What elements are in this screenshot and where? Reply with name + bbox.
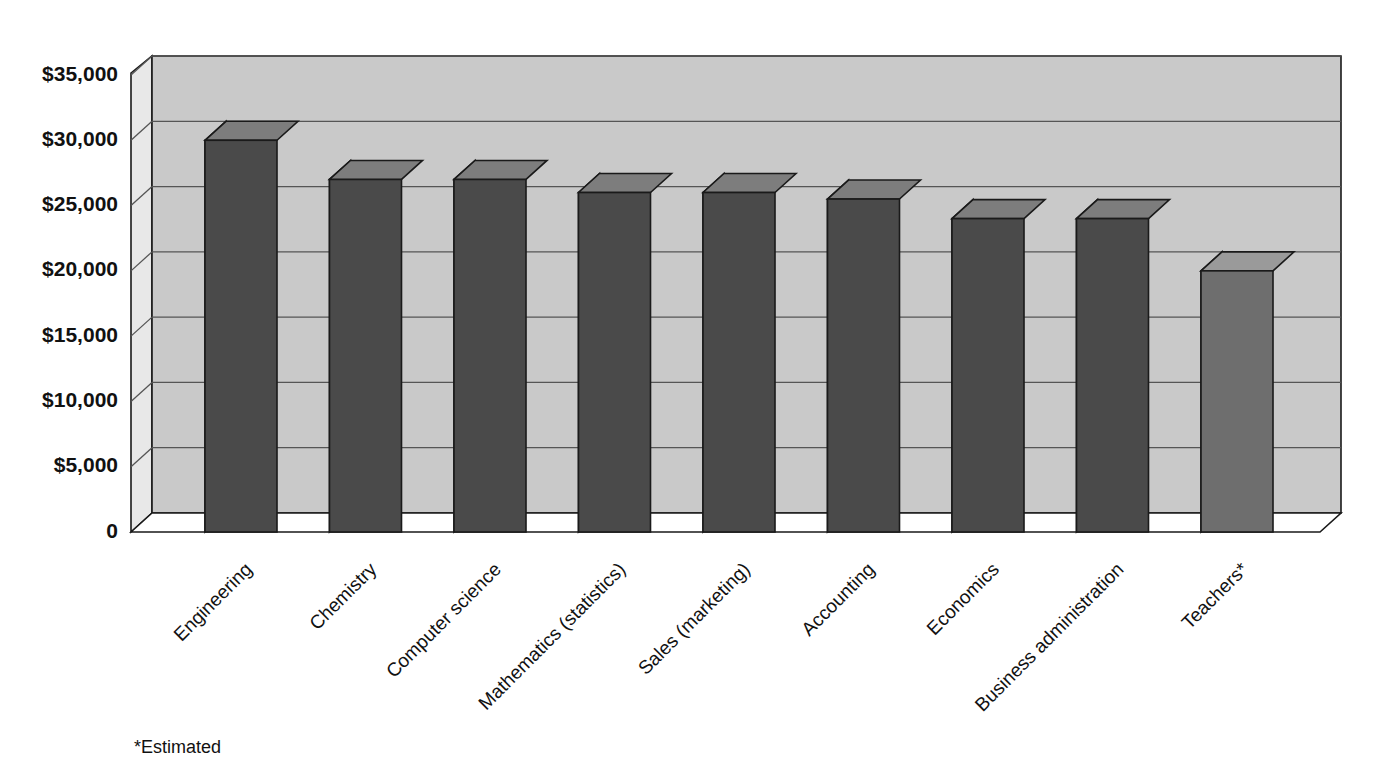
y-tick-label-3: $15,000: [42, 323, 118, 346]
y-tick-label-6: $30,000: [42, 127, 118, 150]
bar-front-face: [205, 140, 277, 532]
bar-front-face: [330, 179, 402, 532]
y-tick-label-1: $5,000: [54, 453, 118, 476]
y-tick-label-5: $25,000: [42, 192, 118, 215]
bar-front-face: [1077, 219, 1149, 532]
bar-chart: 0$5,000$10,000$15,000$20,000$25,000$30,0…: [0, 0, 1387, 782]
y-tick-label-7: $35,000: [42, 62, 118, 85]
axis-left-wall: [131, 56, 152, 532]
chart-container: 0$5,000$10,000$15,000$20,000$25,000$30,0…: [0, 0, 1387, 782]
y-tick-label-2: $10,000: [42, 388, 118, 411]
y-tick-label-0: 0: [106, 519, 118, 542]
bar-front-face: [1201, 271, 1273, 532]
bar-front-face: [952, 219, 1024, 532]
bar-front-face: [579, 193, 651, 532]
footnote-estimated: *Estimated: [134, 737, 221, 757]
bar-front-face: [828, 199, 900, 532]
y-tick-label-4: $20,000: [42, 257, 118, 280]
bar-front-face: [703, 193, 775, 532]
bar-front-face: [454, 179, 526, 532]
